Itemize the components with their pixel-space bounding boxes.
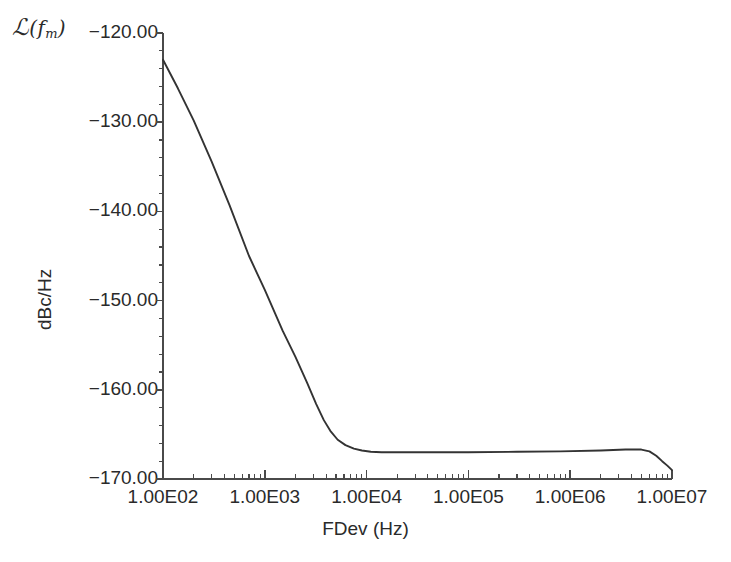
series-line-0 <box>163 60 672 470</box>
plot-area <box>0 0 731 562</box>
phase-noise-chart: ℒ(fm) dBc/Hz FDev (Hz) −120.00−130.00−14… <box>0 0 731 562</box>
